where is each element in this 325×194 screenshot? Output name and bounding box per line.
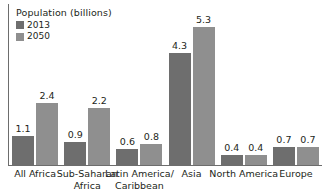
bar-group: 0.60.8 [115, 4, 163, 165]
bar-value-label: 0.7 [288, 135, 325, 145]
bar [116, 149, 138, 165]
bar-value-label: 2.2 [79, 96, 119, 106]
bar-group: 0.92.2 [63, 4, 111, 165]
bar [297, 147, 319, 165]
x-axis-line [8, 165, 322, 166]
bar-column: 0.4 [220, 4, 244, 165]
bar-column: 2.4 [35, 4, 59, 165]
bar-value-label: 5.3 [184, 15, 224, 25]
bar-column: 4.3 [168, 4, 192, 165]
x-axis-labels: All AfricaSub-Saharan AfricaLatin Americ… [9, 168, 322, 194]
bar-value-label: 0.8 [131, 132, 171, 142]
bar-value-label: 2.4 [27, 91, 67, 101]
bar [140, 144, 162, 165]
bar-chart: Population (billions) 2013 2050 1.12.40.… [0, 0, 325, 194]
x-axis-label: Europe [256, 168, 325, 180]
bar-column: 5.3 [192, 4, 216, 165]
bar [273, 147, 295, 165]
bar [169, 53, 191, 165]
bar-group: 0.70.7 [272, 4, 320, 165]
bar-group: 0.40.4 [220, 4, 268, 165]
bar-column: 0.8 [139, 4, 163, 165]
bar-group: 1.12.4 [11, 4, 59, 165]
plot-area: 1.12.40.92.20.60.84.35.30.40.40.70.7 [9, 4, 322, 165]
bar [12, 136, 34, 165]
bar [221, 155, 243, 165]
bar-group: 4.35.3 [168, 4, 216, 165]
bar [245, 155, 267, 165]
bar-column: 0.9 [63, 4, 87, 165]
bar-column: 0.7 [296, 4, 320, 165]
bar [64, 142, 86, 165]
bar-column: 1.1 [11, 4, 35, 165]
